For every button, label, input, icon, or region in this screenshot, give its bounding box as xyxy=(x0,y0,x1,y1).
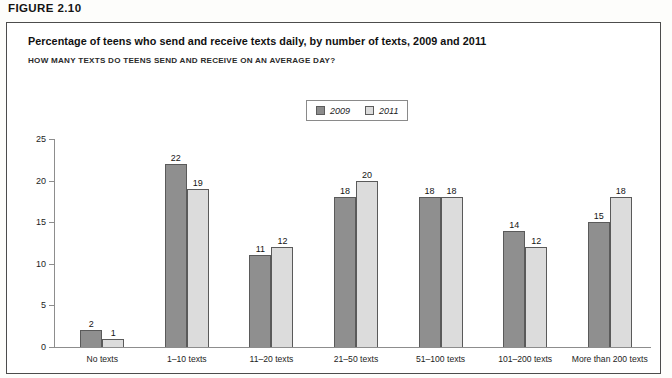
bar-value-label: 1 xyxy=(111,328,116,338)
bar-value-label: 22 xyxy=(171,153,181,163)
bar-value-label: 18 xyxy=(447,186,457,196)
x-axis-label: 51–100 texts xyxy=(416,354,465,364)
y-axis-tick xyxy=(49,264,54,265)
figure-container: FIGURE 2.10 Percentage of teens who send… xyxy=(0,0,672,378)
bar-value-label: 18 xyxy=(340,186,350,196)
bar-value-label: 20 xyxy=(362,170,372,180)
bar-value-label: 2 xyxy=(89,319,94,329)
legend-item-2009: 2009 xyxy=(316,106,350,116)
x-axis-label: More than 200 texts xyxy=(572,354,648,364)
legend-label-2011: 2011 xyxy=(379,106,398,116)
bar-2011: 1 xyxy=(102,339,124,347)
y-axis-tick-label: 20 xyxy=(36,176,46,186)
legend-label-2009: 2009 xyxy=(330,106,350,116)
bar-2009: 2 xyxy=(80,330,102,347)
bar-value-label: 19 xyxy=(193,178,203,188)
bar-value-label: 15 xyxy=(594,211,604,221)
figure-label: FIGURE 2.10 xyxy=(8,2,81,14)
bar-2011: 18 xyxy=(441,197,463,347)
y-axis-line xyxy=(54,139,55,347)
legend-item-2011: 2011 xyxy=(365,106,398,116)
bar-group: 1412 xyxy=(503,139,547,347)
bar-2009: 15 xyxy=(588,222,610,347)
bar-2009: 14 xyxy=(503,231,525,347)
x-axis-label: 1–10 texts xyxy=(167,354,207,364)
bar-2011: 18 xyxy=(610,197,632,347)
bar-group: 1518 xyxy=(588,139,632,347)
y-axis-tick-label: 5 xyxy=(41,300,46,310)
bar-group: 1820 xyxy=(334,139,378,347)
bar-2009: 22 xyxy=(165,164,187,347)
bar-2009: 18 xyxy=(419,197,441,347)
x-axis-line xyxy=(54,347,651,348)
y-axis-tick xyxy=(49,222,54,223)
bar-value-label: 18 xyxy=(425,186,435,196)
x-axis-label: 101–200 texts xyxy=(498,354,552,364)
bar-group: 1818 xyxy=(419,139,463,347)
bar-2009: 11 xyxy=(249,255,271,347)
bar-value-label: 18 xyxy=(616,186,626,196)
figure-frame: Percentage of teens who send and receive… xyxy=(6,22,661,374)
y-axis-tick-label: 25 xyxy=(36,134,46,144)
bar-group: 2219 xyxy=(165,139,209,347)
chart-subtitle: HOW MANY TEXTS DO TEENS SEND AND RECEIVE… xyxy=(28,56,335,65)
bar-group: 1112 xyxy=(249,139,293,347)
bar-group: 21 xyxy=(80,139,124,347)
bar-2011: 12 xyxy=(271,247,293,347)
chart-title: Percentage of teens who send and receive… xyxy=(28,35,486,47)
y-axis-tick xyxy=(49,139,54,140)
x-axis-label: No texts xyxy=(87,354,119,364)
plot-area: 0510152025 21221911121820181814121518 No… xyxy=(54,139,646,347)
bar-value-label: 14 xyxy=(509,220,519,230)
bar-value-label: 11 xyxy=(256,244,265,254)
bar-value-label: 12 xyxy=(531,236,541,246)
y-axis-tick-label: 10 xyxy=(36,259,46,269)
y-axis-tick xyxy=(49,347,54,348)
legend-swatch-icon-2011 xyxy=(365,106,374,115)
y-axis-tick-label: 15 xyxy=(36,217,46,227)
bar-2011: 12 xyxy=(525,247,547,347)
bar-2011: 19 xyxy=(187,189,209,347)
bar-2011: 20 xyxy=(356,181,378,347)
y-axis-tick xyxy=(49,181,54,182)
x-axis-label: 21–50 texts xyxy=(334,354,378,364)
legend-swatch-icon-2009 xyxy=(316,106,325,115)
x-axis-label: 11–20 texts xyxy=(250,354,294,364)
y-axis-tick-label: 0 xyxy=(41,342,46,352)
y-axis-tick xyxy=(49,305,54,306)
chart-legend: 2009 2011 xyxy=(306,100,408,121)
bar-value-label: 12 xyxy=(277,236,287,246)
bar-2009: 18 xyxy=(334,197,356,347)
